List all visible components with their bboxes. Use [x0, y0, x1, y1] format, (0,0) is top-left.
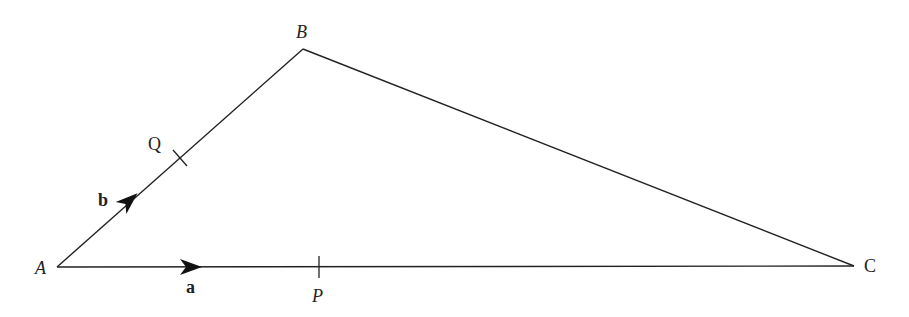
side-ac	[57, 266, 854, 267]
label-a-vertex: A	[34, 258, 47, 278]
triangle-diagram: A B C Q P a b	[0, 0, 909, 317]
label-c-vertex: C	[864, 256, 876, 276]
side-bc	[303, 49, 854, 266]
label-p-point: P	[311, 286, 323, 306]
label-q-point: Q	[148, 134, 161, 154]
tick-q	[173, 150, 187, 166]
label-vector-a: a	[186, 277, 195, 297]
label-b-vertex: B	[296, 22, 307, 42]
vector-b-arrow-icon	[116, 187, 143, 214]
label-vector-b: b	[98, 190, 108, 210]
